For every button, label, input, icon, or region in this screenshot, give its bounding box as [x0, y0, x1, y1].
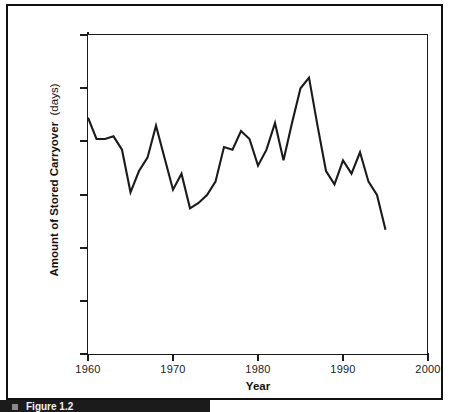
x-tick-mark [172, 354, 174, 361]
y-tick-mark [80, 353, 87, 355]
y-tick-mark [80, 247, 87, 249]
data-line-svg [88, 35, 428, 355]
figure-caption-band: Figure 1.2 [0, 400, 210, 412]
y-axis-title-units-text: (days) [48, 84, 60, 116]
caption-bullet-icon [12, 404, 18, 410]
plot-area [88, 34, 428, 354]
y-axis-title-main: Amount of Stored Carryover [48, 122, 60, 277]
x-tick-label: 1980 [245, 363, 270, 375]
figure-outer-frame: 120 100 80 60 40 20 0 1960 1970 [6, 4, 443, 400]
y-axis-title: Amount of Stored Carryover (days) [48, 55, 60, 305]
data-series-line [88, 78, 386, 230]
y-tick-mark [80, 87, 87, 89]
x-tick-mark [342, 354, 344, 361]
x-tick-mark [87, 354, 89, 361]
figure-caption-label: Figure 1.2 [26, 401, 73, 412]
y-tick-mark [80, 300, 87, 302]
y-tick-mark [80, 34, 87, 36]
x-tick-label: 1990 [330, 363, 355, 375]
y-tick-mark [80, 140, 87, 142]
x-tick-label: 1960 [75, 363, 100, 375]
x-tick-mark [257, 354, 259, 361]
y-axis-title-units [48, 115, 60, 121]
figure-root: 120 100 80 60 40 20 0 1960 1970 [0, 0, 449, 412]
x-tick-mark [427, 354, 429, 361]
x-axis-title: Year [88, 380, 428, 392]
x-tick-label: 1970 [160, 363, 185, 375]
x-tick-label: 2000 [415, 363, 440, 375]
y-tick-mark [80, 194, 87, 196]
